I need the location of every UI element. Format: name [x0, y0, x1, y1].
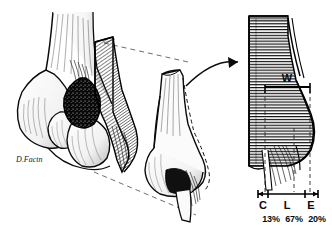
zone-percent-e: 20% [308, 214, 326, 224]
figure-canvas: D.Factn [0, 0, 332, 234]
zone-percent-l: 67% [285, 214, 303, 224]
artist-signature: D.Factn [15, 155, 42, 164]
illustration-svg: D.Factn [0, 0, 332, 234]
zone-percent-c: 13% [262, 214, 280, 224]
zone-letter-l: L [284, 199, 291, 211]
zone-letter-e: E [307, 199, 314, 211]
width-label-w: W [282, 72, 293, 84]
zone-letter-c: C [259, 199, 267, 211]
